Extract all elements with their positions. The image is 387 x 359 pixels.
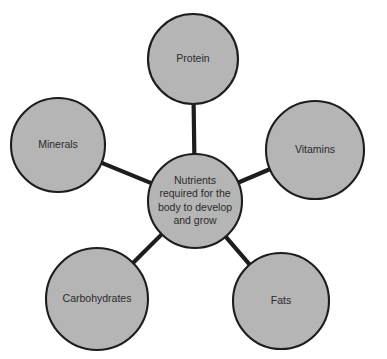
node-circle-minerals[interactable] xyxy=(11,98,105,192)
node-circle-vitamins[interactable] xyxy=(266,101,364,199)
connector-center-to-minerals xyxy=(99,162,155,185)
connector-center-to-vitamins xyxy=(235,168,272,184)
diagram-canvas xyxy=(0,0,387,359)
node-circle-center[interactable] xyxy=(148,154,242,248)
node-circle-carbohydrates[interactable] xyxy=(46,248,148,350)
node-circle-protein[interactable] xyxy=(148,14,238,104)
connector-center-to-fats xyxy=(224,234,252,267)
circles-group xyxy=(11,14,364,350)
nutrients-spider-diagram: ProteinVitaminsMineralsCarbohydratesFats… xyxy=(0,0,387,359)
node-circle-fats[interactable] xyxy=(233,253,329,349)
connector-center-to-carbohydrates xyxy=(131,232,164,265)
connector-center-to-protein xyxy=(194,101,195,157)
